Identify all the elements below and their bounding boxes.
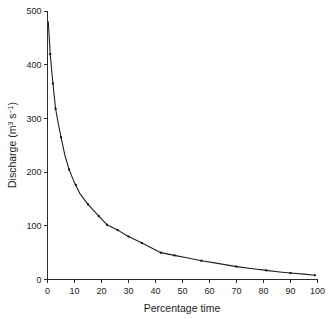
- data-point-marker: [68, 168, 70, 170]
- y-tick-label: 400: [26, 60, 41, 70]
- data-series: [48, 22, 315, 276]
- y-axis-title-label: Discharge (m3 s−1): [6, 102, 18, 188]
- data-point-marker: [98, 215, 100, 217]
- data-point-marker: [173, 254, 175, 256]
- data-point-marker: [75, 184, 77, 186]
- x-tick-label: 70: [231, 286, 241, 296]
- chart-canvas: 0100200300400500 0102030405060708090100 …: [0, 0, 328, 319]
- y-axis-title-superscript-minus1: −1: [7, 105, 14, 113]
- data-point-marker: [128, 236, 130, 238]
- y-tick-label: 200: [26, 167, 41, 177]
- data-point-marker: [55, 108, 57, 110]
- y-tick-label: 500: [26, 6, 41, 16]
- x-tick-label: 0: [45, 286, 50, 296]
- y-axis-title-part-mid: s: [6, 113, 18, 121]
- x-axis-tick-labels: 0102030405060708090100: [45, 286, 325, 296]
- data-point-marker: [141, 242, 143, 244]
- x-tick-label: 20: [96, 286, 106, 296]
- x-axis-ticks: [48, 280, 318, 284]
- x-tick-label: 60: [204, 286, 214, 296]
- y-axis-title: Discharge (m3 s−1): [6, 102, 18, 188]
- data-point-marker: [160, 252, 162, 254]
- y-axis-ticks: [44, 11, 48, 280]
- data-point-marker: [49, 53, 51, 55]
- y-tick-label: 100: [26, 221, 41, 231]
- data-point-marker: [314, 274, 316, 276]
- y-axis-title-part-end: ): [6, 102, 18, 106]
- flow-duration-chart: 0100200300400500 0102030405060708090100 …: [0, 0, 328, 319]
- x-axis-title-label: Percentage time: [144, 302, 221, 314]
- x-tick-label: 10: [69, 286, 79, 296]
- data-point-marker: [87, 203, 89, 205]
- series-markers: [49, 53, 316, 276]
- x-tick-label: 90: [285, 286, 295, 296]
- x-tick-label: 30: [123, 286, 133, 296]
- y-tick-label: 300: [26, 114, 41, 124]
- data-point-marker: [117, 229, 119, 231]
- y-axis-title-part-main: Discharge (m: [6, 125, 18, 188]
- x-tick-label: 80: [258, 286, 268, 296]
- x-tick-label: 40: [150, 286, 160, 296]
- x-tick-label: 50: [177, 286, 187, 296]
- data-point-marker: [290, 272, 292, 274]
- data-point-marker: [106, 224, 108, 226]
- data-point-marker: [52, 83, 54, 85]
- data-point-marker: [236, 266, 238, 268]
- y-axis: 0100200300400500: [26, 6, 47, 285]
- series-line-flow-duration: [48, 22, 314, 275]
- data-point-marker: [265, 269, 267, 271]
- y-axis-tick-labels: 0100200300400500: [26, 6, 41, 285]
- x-axis-title: Percentage time: [144, 302, 221, 314]
- data-point-marker: [60, 136, 62, 138]
- y-tick-label: 0: [36, 275, 41, 285]
- data-point-marker: [200, 260, 202, 262]
- x-tick-label: 100: [310, 286, 325, 296]
- x-axis: 0102030405060708090100: [45, 280, 325, 296]
